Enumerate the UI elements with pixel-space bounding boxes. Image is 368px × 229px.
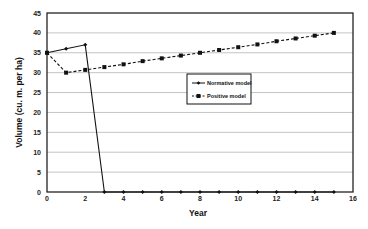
data-point: [275, 39, 279, 43]
x-tick-label: 8: [198, 195, 202, 202]
y-tick-label: 15: [33, 129, 41, 136]
series-line: [47, 45, 334, 192]
x-tick-label: 10: [234, 195, 242, 202]
data-point: [179, 54, 183, 58]
x-tick-label: 4: [122, 195, 126, 202]
data-point: [141, 59, 145, 63]
data-point: [179, 190, 183, 194]
y-tick-label: 5: [37, 169, 41, 176]
x-tick-label: 12: [273, 195, 281, 202]
data-point: [332, 190, 336, 194]
legend: Normative modelPositive model: [187, 74, 252, 104]
y-tick-label: 20: [33, 109, 41, 116]
series-normative-model: [45, 43, 336, 194]
data-point: [217, 190, 221, 194]
data-point: [160, 56, 164, 60]
x-tick-label: 14: [311, 195, 319, 202]
y-axis-label: Volume (cu. m. per ha): [14, 57, 24, 148]
y-tick-labels: 051015202530354045: [33, 10, 41, 196]
data-point: [275, 190, 279, 194]
data-point: [64, 71, 68, 75]
x-tick-label: 2: [83, 195, 87, 202]
legend-label: Normative model: [207, 80, 252, 86]
data-point: [141, 190, 145, 194]
data-point: [198, 51, 202, 55]
y-tick-label: 45: [33, 10, 41, 17]
data-point: [122, 62, 126, 66]
x-tick-label: 16: [349, 195, 357, 202]
x-tick-label: 0: [45, 195, 49, 202]
data-point: [255, 190, 259, 194]
data-point: [313, 34, 317, 38]
data-point: [313, 190, 317, 194]
y-tick-label: 30: [33, 69, 41, 76]
data-point: [332, 31, 336, 35]
data-point: [102, 190, 106, 194]
y-tick-label: 0: [37, 189, 41, 196]
data-point: [160, 190, 164, 194]
data-point: [122, 190, 126, 194]
line-chart: 051015202530354045 0246810121416 Year Vo…: [0, 0, 368, 229]
y-tick-label: 40: [33, 29, 41, 36]
data-point: [198, 190, 202, 194]
y-tick-label: 35: [33, 49, 41, 56]
data-point: [294, 190, 298, 194]
legend-label: Positive model: [207, 93, 246, 99]
legend-marker: [197, 94, 201, 98]
data-point: [83, 43, 87, 47]
data-point: [217, 48, 221, 52]
y-tick-label: 10: [33, 149, 41, 156]
data-point: [294, 36, 298, 40]
data-point: [83, 68, 87, 72]
x-axis-label: Year: [189, 208, 208, 218]
x-tick-labels: 0246810121416: [45, 195, 357, 202]
data-point: [236, 190, 240, 194]
y-tick-label: 25: [33, 89, 41, 96]
data-point: [236, 45, 240, 49]
data-point: [64, 47, 68, 51]
x-tick-label: 6: [160, 195, 164, 202]
data-point: [45, 51, 49, 55]
data-point: [102, 65, 106, 69]
legend-box: [187, 74, 251, 104]
data-point: [255, 42, 259, 46]
